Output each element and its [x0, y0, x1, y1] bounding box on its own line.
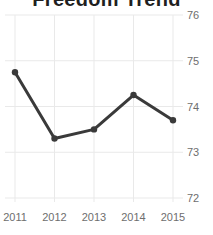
y-tick-label: 73	[187, 146, 199, 158]
y-tick-label: 74	[187, 101, 199, 113]
chart-title-container: Freedom Trend	[0, 0, 213, 8]
data-point-marker	[91, 126, 97, 132]
x-tick-label: 2012	[42, 211, 66, 223]
x-tick-label: 2014	[121, 211, 145, 223]
x-tick-label: 2015	[161, 211, 185, 223]
data-point-marker	[170, 117, 176, 123]
x-tick-label: 2011	[3, 211, 27, 223]
x-tick-label: 2013	[82, 211, 106, 223]
data-point-marker	[12, 69, 18, 75]
data-point-marker	[130, 92, 136, 98]
freedom-trend-chart-card: Freedom Trend 76757473722011201220132014…	[0, 0, 213, 235]
chart-title: Freedom Trend	[0, 0, 213, 8]
data-point-marker	[51, 135, 57, 141]
line-chart-plot: 767574737220112012201320142015	[0, 0, 213, 235]
y-tick-label: 75	[187, 55, 199, 67]
y-tick-label: 72	[187, 192, 199, 204]
y-tick-label: 76	[187, 9, 199, 21]
